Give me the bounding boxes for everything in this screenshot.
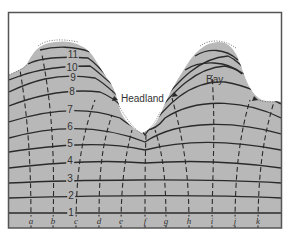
wave-crest-label-11: 11 (67, 50, 79, 60)
wave-crest-label-10: 10 (65, 63, 78, 73)
orthogonal-label-k: k (255, 217, 261, 226)
wave-crest-label-5: 5 (66, 139, 74, 149)
wave-crest-label-8: 8 (68, 87, 76, 97)
wave-crest-label-9: 9 (69, 73, 77, 83)
bay-label: Bay (206, 75, 223, 85)
wave-crest-label-6: 6 (66, 122, 74, 132)
orthogonal-label-c: c (73, 217, 79, 226)
orthogonal-label-f: f (143, 217, 148, 226)
orthogonal-label-i: i (210, 217, 215, 226)
orthogonal-label-a: a (28, 217, 35, 226)
orthogonal-label-h: h (186, 217, 193, 226)
orthogonal-label-e: e (118, 217, 124, 226)
orthogonal-label-d: d (96, 217, 103, 226)
orthogonal-label-g: g (163, 217, 170, 226)
orthogonal-label-j: j (233, 217, 238, 226)
orthogonal-label-b: b (50, 217, 57, 226)
headland-label: Headland (121, 94, 164, 104)
wave-crest-label-2: 2 (67, 191, 75, 201)
wave-crest-label-3: 3 (66, 174, 74, 184)
wave-crest-label-7: 7 (66, 105, 74, 115)
wave-crest-label-4: 4 (66, 156, 74, 166)
wave-refraction-diagram (0, 0, 290, 235)
